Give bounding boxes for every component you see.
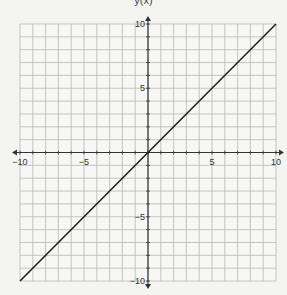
y-axis-down-arrow-icon — [145, 284, 151, 289]
y-tick-label: 5 — [140, 83, 145, 93]
x-axis-left-arrow-icon — [12, 150, 17, 156]
y-tick-label: −5 — [135, 212, 145, 222]
x-tick-label: −10 — [12, 157, 27, 167]
x-tick-label: 10 — [271, 157, 281, 167]
y-tick-label: 10 — [135, 19, 145, 29]
x-tick-label: 5 — [209, 157, 214, 167]
y-tick-label: −10 — [130, 276, 145, 286]
x-tick-label: −5 — [79, 157, 89, 167]
x-axis-right-arrow-icon — [279, 150, 284, 156]
line-chart: −10−5510−10−5510 — [0, 0, 287, 295]
y-axis-up-arrow-icon — [145, 16, 151, 21]
